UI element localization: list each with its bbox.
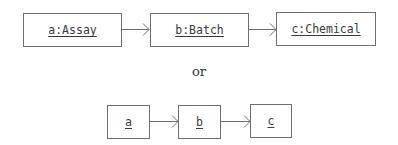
node-label: c:Chemical — [291, 22, 360, 36]
arrow-a-to-b-top — [121, 24, 149, 36]
node-c: c — [250, 104, 292, 138]
node-label: b — [196, 115, 203, 129]
node-a: a — [107, 105, 150, 139]
separator-text: or — [0, 64, 398, 79]
arrow-a-to-b-bottom — [149, 116, 178, 128]
arrow-b-to-c-top — [248, 24, 276, 36]
node-label: c — [268, 114, 275, 128]
node-label: a:Assay — [48, 23, 96, 37]
node-b-batch: b:Batch — [150, 13, 249, 47]
node-label: a — [125, 115, 132, 129]
node-b: b — [178, 105, 221, 139]
node-label: b:Batch — [175, 23, 223, 37]
node-c-chemical: c:Chemical — [276, 12, 376, 46]
node-a-assay: a:Assay — [23, 13, 122, 47]
arrow-b-to-c-bottom — [220, 116, 250, 128]
